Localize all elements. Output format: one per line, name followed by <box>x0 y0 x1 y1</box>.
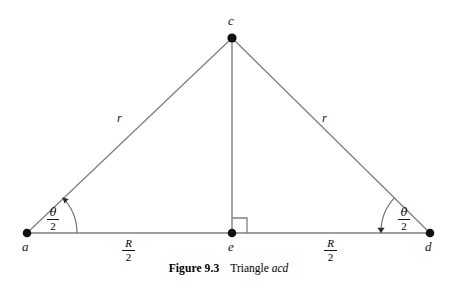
vertex-label-a: a <box>22 240 29 253</box>
vertex-dot-e <box>228 229 237 238</box>
segment-ac <box>27 38 232 233</box>
figure-caption: Figure 9.3Triangle acd <box>0 262 457 274</box>
angle-left-numerator: θ <box>47 207 59 219</box>
angle-arc-d-arrowhead-icon <box>377 228 384 233</box>
angle-label-left-theta-over-2: θ 2 <box>47 207 59 232</box>
caption-italic-subject: acd <box>272 262 289 274</box>
vertex-label-d: d <box>425 240 432 253</box>
angle-right-numerator: θ <box>398 207 410 219</box>
segment-cd <box>232 38 430 233</box>
angle-label-right-theta-over-2: θ 2 <box>398 207 410 232</box>
base-right-numerator: R <box>324 238 337 250</box>
base-label-right-r-over-2: R 2 <box>324 238 337 263</box>
vertex-label-e: e <box>228 240 234 253</box>
side-label-right-radius: r <box>322 112 327 125</box>
base-left-numerator: R <box>122 238 135 250</box>
vertex-dot-c <box>227 33 236 42</box>
vertex-dot-d <box>426 229 435 238</box>
vertex-dot-a <box>23 229 32 238</box>
angle-right-denominator: 2 <box>398 220 410 232</box>
angle-arc-a-arrowhead-icon <box>63 198 69 204</box>
angle-arc-d-icon <box>381 198 395 233</box>
caption-text: Triangle <box>230 262 271 274</box>
angle-left-denominator: 2 <box>47 220 59 232</box>
caption-number: Figure 9.3 <box>169 262 220 274</box>
figure-container: a c e d r r R 2 R 2 θ 2 θ 2 Figure 9.3Tr… <box>0 0 457 290</box>
vertex-label-c: c <box>228 14 234 27</box>
base-label-left-r-over-2: R 2 <box>122 238 135 263</box>
side-label-left-radius: r <box>117 112 122 125</box>
